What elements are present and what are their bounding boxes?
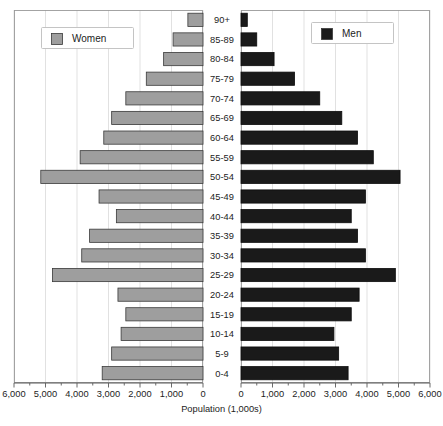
age-label-40-44: 40-44 <box>210 212 234 222</box>
x-tick-label: 2,000 <box>292 389 315 399</box>
legend-men[interactable]: Men <box>312 23 394 44</box>
bar-men-60-64 <box>241 131 358 144</box>
bar-men-75-79 <box>241 72 295 85</box>
legend-men-swatch <box>322 29 333 40</box>
bar-men-20-24 <box>241 288 359 301</box>
bar-women-55-59 <box>80 151 203 164</box>
bar-women-75-79 <box>146 72 203 85</box>
age-label-25-29: 25-29 <box>210 270 234 280</box>
bar-men-85-89 <box>241 33 257 46</box>
bar-men-40-44 <box>241 210 351 223</box>
bar-women-10-14 <box>121 327 203 340</box>
bar-men-45-49 <box>241 190 365 203</box>
bar-men-35-39 <box>241 229 358 242</box>
bar-women-80-84 <box>164 52 203 65</box>
age-label-35-39: 35-39 <box>210 231 234 241</box>
bar-men-50-54 <box>241 170 400 183</box>
bar-men-65-69 <box>241 111 342 124</box>
bar-women-65-69 <box>112 111 203 124</box>
legend-women-label: Women <box>72 33 106 44</box>
x-tick-label: 4,000 <box>65 389 88 399</box>
age-label-90+: 90+ <box>214 15 230 25</box>
bar-men-80-84 <box>241 52 274 65</box>
age-label-15-19: 15-19 <box>210 310 234 320</box>
bar-men-5-9 <box>241 347 339 360</box>
x-tick-label: 1,000 <box>261 389 284 399</box>
population-pyramid-chart: 0-45-910-1415-1920-2425-2930-3435-3940-4… <box>0 0 443 426</box>
age-label-65-69: 65-69 <box>210 113 234 123</box>
bar-men-30-34 <box>241 249 365 262</box>
x-tick-label: 0 <box>238 389 243 399</box>
legend-men-label: Men <box>342 28 361 39</box>
x-tick-label: 3,000 <box>97 389 120 399</box>
age-label-55-59: 55-59 <box>210 153 234 163</box>
age-label-85-89: 85-89 <box>210 35 234 45</box>
age-label-75-79: 75-79 <box>210 74 234 84</box>
bar-women-60-64 <box>104 131 203 144</box>
x-tick-label: 4,000 <box>355 389 378 399</box>
bar-women-45-49 <box>99 190 203 203</box>
bar-men-25-29 <box>241 268 395 281</box>
bar-men-0-4 <box>241 367 348 380</box>
x-tick-label: 5,000 <box>34 389 57 399</box>
bar-women-90+ <box>188 13 203 26</box>
bar-women-15-19 <box>126 308 203 321</box>
age-label-80-84: 80-84 <box>210 54 234 64</box>
bar-women-70-74 <box>126 92 203 105</box>
bar-women-85-89 <box>173 33 203 46</box>
x-tick-label: 6,000 <box>2 389 25 399</box>
age-label-20-24: 20-24 <box>210 290 234 300</box>
legend-women-swatch <box>52 34 63 45</box>
bar-men-55-59 <box>241 151 373 164</box>
bar-men-15-19 <box>241 308 351 321</box>
age-label-60-64: 60-64 <box>210 133 234 143</box>
x-tick-label: 6,000 <box>418 389 441 399</box>
bar-women-5-9 <box>112 347 203 360</box>
bar-men-70-74 <box>241 92 320 105</box>
bar-men-90+ <box>241 13 247 26</box>
bar-men-10-14 <box>241 327 334 340</box>
x-tick-label: 3,000 <box>324 389 347 399</box>
age-label-10-14: 10-14 <box>210 329 234 339</box>
x-tick-label: 2,000 <box>128 389 151 399</box>
x-tick-label: 0 <box>200 389 205 399</box>
x-tick-label: 1,000 <box>160 389 183 399</box>
legend-women[interactable]: Women <box>42 28 134 49</box>
bar-women-35-39 <box>90 229 203 242</box>
bar-women-40-44 <box>116 210 203 223</box>
bar-women-50-54 <box>41 170 203 183</box>
age-label-50-54: 50-54 <box>210 172 234 182</box>
age-label-30-34: 30-34 <box>210 251 234 261</box>
x-axis-title: Population (1,000s) <box>181 404 262 414</box>
age-label-0-4: 0-4 <box>215 369 228 379</box>
bar-women-20-24 <box>118 288 203 301</box>
age-label-5-9: 5-9 <box>215 349 228 359</box>
age-label-45-49: 45-49 <box>210 192 234 202</box>
bar-women-30-34 <box>82 249 203 262</box>
bar-women-0-4 <box>102 367 203 380</box>
bar-women-25-29 <box>52 268 203 281</box>
x-tick-label: 5,000 <box>387 389 410 399</box>
age-label-70-74: 70-74 <box>210 94 234 104</box>
